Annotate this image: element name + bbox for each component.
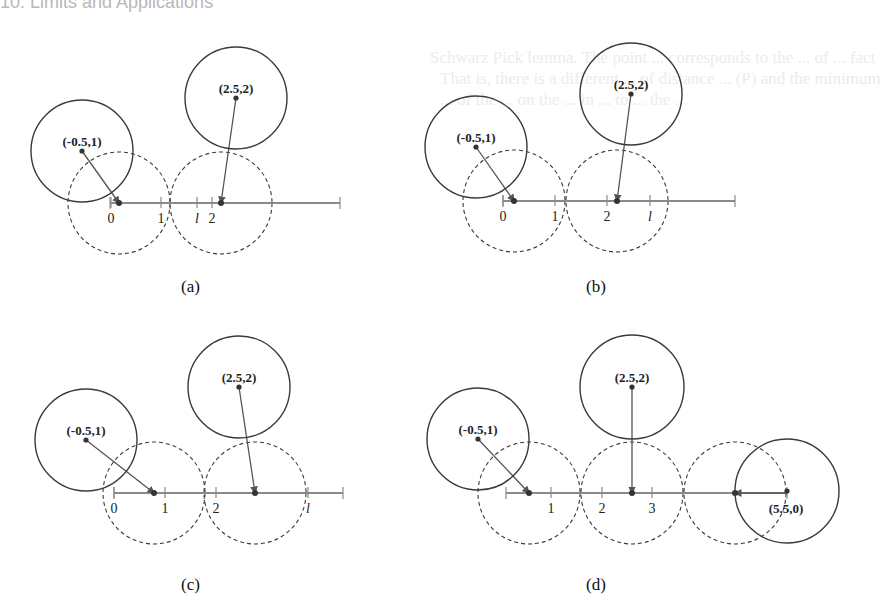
panel-b: 012l(-0.5,1)(2.5,2) (425, 43, 735, 252)
caption-panel-b: (b) (586, 277, 606, 297)
point-coordinate-label: (-0.5,1) (459, 422, 498, 437)
point-coordinate-label: (5.5,0) (769, 501, 804, 516)
panel-d: 123(-0.5,1)(2.5,2)(5.5,0) (427, 335, 839, 544)
tick-label: l (195, 211, 199, 226)
point-coordinate-label: (2.5,2) (222, 370, 257, 385)
tick-label: 2 (209, 211, 216, 226)
tick-label: 2 (599, 501, 606, 516)
tick-label: 1 (158, 211, 165, 226)
center-point-dot (784, 488, 789, 493)
projected-point-dot (614, 198, 620, 204)
caption-panel-c: (c) (181, 575, 200, 595)
projected-point-dot (116, 200, 122, 206)
point-coordinate-label: (-0.5,1) (457, 130, 496, 145)
projected-point-dot (151, 490, 157, 496)
tick-label: 3 (649, 501, 656, 516)
center-point-dot (233, 95, 238, 100)
panel-c: 012l(-0.5,1)(2.5,2) (35, 336, 343, 544)
projected-point-dot (526, 490, 532, 496)
tick-label: 2 (213, 501, 220, 516)
tick-label: 1 (548, 501, 555, 516)
projection-arrow (82, 151, 119, 203)
projected-point-dot (511, 198, 517, 204)
point-coordinate-label: (2.5,2) (219, 81, 254, 96)
center-point-dot (83, 437, 88, 442)
panel-a: 01l2(-0.5,1)(2.5,2) (31, 47, 340, 254)
projection-arrow (476, 147, 514, 201)
projected-point-dot (629, 490, 635, 496)
point-coordinate-label: (2.5,2) (615, 370, 650, 385)
tick-label: 0 (108, 211, 115, 226)
tick-label: 0 (111, 501, 118, 516)
center-point-dot (473, 144, 478, 149)
projected-point-dot (252, 490, 258, 496)
tick-label: l (306, 501, 310, 516)
projection-arrow (617, 94, 631, 201)
caption-panel-d: (d) (586, 575, 606, 595)
tick-label: l (648, 209, 652, 224)
center-point-dot (628, 91, 633, 96)
center-point-dot (79, 148, 84, 153)
point-coordinate-label: (-0.5,1) (67, 423, 106, 438)
tick-label: 1 (552, 209, 559, 224)
caption-panel-a: (a) (181, 277, 200, 297)
projected-point-dot (218, 200, 224, 206)
projection-arrow (239, 387, 255, 493)
center-point-dot (475, 436, 480, 441)
point-coordinate-label: (2.5,2) (614, 77, 649, 92)
center-point-dot (629, 384, 634, 389)
projection-arrow (86, 440, 154, 493)
point-coordinate-label: (-0.5,1) (63, 134, 102, 149)
center-point-dot (236, 384, 241, 389)
tick-label: 0 (500, 209, 507, 224)
tick-label: 1 (162, 501, 169, 516)
projection-arrow (221, 98, 236, 203)
tick-label: 2 (604, 209, 611, 224)
